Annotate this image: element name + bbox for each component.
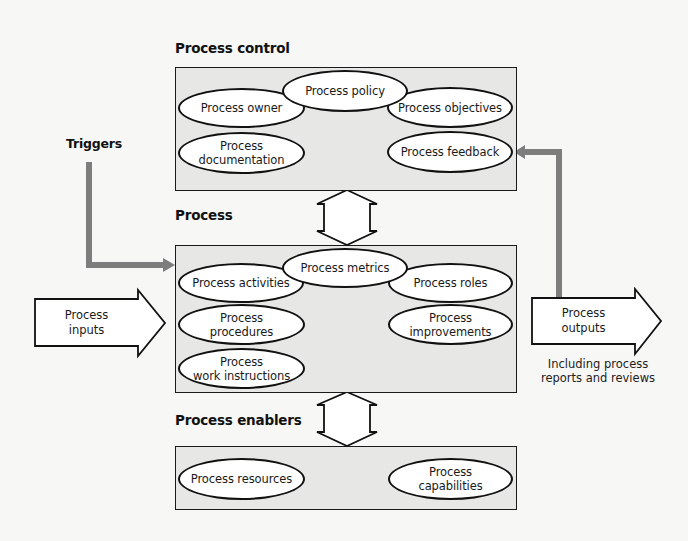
node-label: Process objectives bbox=[398, 101, 502, 115]
node-label: Process resources bbox=[191, 472, 292, 486]
node-label: Process improvements bbox=[410, 311, 492, 339]
node-process-documentation[interactable]: Process documentation bbox=[178, 132, 305, 174]
process-inputs-label: Process inputs bbox=[35, 308, 138, 338]
node-label: Process capabilities bbox=[418, 465, 482, 493]
node-process-metrics[interactable]: Process metrics bbox=[282, 248, 408, 288]
node-label: Process procedures bbox=[210, 311, 273, 339]
node-process-capabilities[interactable]: Process capabilities bbox=[388, 458, 513, 500]
process-model-diagram: Process control Process Process enablers… bbox=[0, 0, 688, 541]
process-enablers-heading: Process enablers bbox=[175, 412, 302, 428]
node-label: Process metrics bbox=[301, 261, 390, 275]
node-label: Process policy bbox=[305, 84, 385, 98]
node-label: Process work instructions bbox=[193, 355, 290, 383]
node-process-policy[interactable]: Process policy bbox=[282, 70, 408, 112]
triggers-label: Triggers bbox=[66, 136, 122, 151]
process-outputs-note: Including process reports and reviews bbox=[528, 357, 668, 385]
node-process-feedback[interactable]: Process feedback bbox=[387, 131, 513, 173]
process-heading: Process bbox=[175, 207, 233, 223]
triggers-arrow bbox=[89, 162, 175, 272]
node-process-improvements[interactable]: Process improvements bbox=[388, 304, 513, 345]
process-enablers-double-arrow bbox=[317, 392, 377, 446]
node-process-procedures[interactable]: Process procedures bbox=[178, 304, 305, 345]
node-process-resources[interactable]: Process resources bbox=[178, 458, 305, 500]
node-label: Process owner bbox=[201, 101, 283, 115]
node-label: Process feedback bbox=[401, 145, 500, 159]
node-label: Process activities bbox=[192, 276, 289, 290]
feedback-arrow bbox=[514, 145, 559, 298]
node-label: Process roles bbox=[414, 276, 488, 290]
process-outputs-label: Process outputs bbox=[532, 306, 635, 336]
node-label: Process documentation bbox=[199, 139, 285, 167]
control-process-double-arrow bbox=[317, 190, 377, 245]
process-control-heading: Process control bbox=[175, 40, 290, 56]
node-process-work-instructions[interactable]: Process work instructions bbox=[178, 348, 305, 389]
